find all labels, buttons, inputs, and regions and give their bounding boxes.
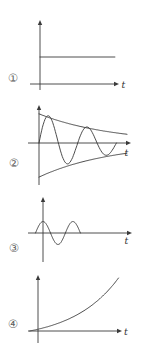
x-axis-arrow-icon (126, 141, 131, 145)
t-axis-label-1: t (122, 79, 126, 90)
t-axis-label-3: t (125, 235, 129, 246)
figure-svg: ① ② ③ ④ t t t t (0, 0, 143, 347)
graph-panel-3 (28, 197, 132, 262)
y-axis-arrow-icon (37, 105, 41, 110)
t-axis-label-4: t (124, 326, 128, 337)
t-axis-label-2: t (125, 147, 129, 158)
panel-number-2: ② (9, 156, 19, 170)
figure: ① ② ③ ④ t t t t (0, 0, 143, 347)
panel-number-4: ④ (8, 317, 18, 331)
y-axis-arrow-icon (41, 197, 45, 202)
y-axis-arrow-icon (36, 275, 40, 280)
graph-panel-2 (28, 105, 131, 185)
graph-panel-4 (28, 275, 122, 343)
panel-number-3: ③ (9, 241, 19, 255)
curve-lower-envelope (39, 153, 127, 177)
graph-panel-1 (30, 20, 119, 90)
panel-number-1: ① (8, 71, 18, 85)
y-axis-arrow-icon (38, 20, 42, 25)
x-axis-arrow-icon (117, 329, 122, 333)
curve-exponential (30, 278, 119, 331)
x-axis-arrow-icon (114, 82, 119, 86)
curve-upper-envelope (39, 114, 127, 134)
